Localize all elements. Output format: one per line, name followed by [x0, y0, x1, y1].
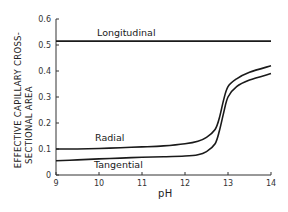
y-tick-label: 0.3	[38, 93, 51, 102]
y-tick-label: 0.4	[38, 67, 51, 76]
x-tick-label: 14	[266, 179, 276, 188]
x-tick-label: 12	[180, 179, 190, 188]
radial-line	[56, 66, 271, 149]
x-tick-label: 10	[94, 179, 104, 188]
tangential-line	[56, 74, 271, 161]
x-axis-title: pH	[158, 188, 172, 199]
y-tick-label: 0.5	[38, 41, 51, 50]
x-tick-label: 9	[53, 179, 58, 188]
y-axis-title-line2: SECTIONAL AREA	[24, 86, 34, 164]
chart: EFFECTIVE CAPILLARY CROSS- SECTIONAL ARE…	[0, 0, 288, 212]
tangential-label: Tangential	[93, 159, 143, 170]
longitudinal-label: Longitudinal	[97, 27, 156, 38]
x-ticks: 91011121314	[53, 172, 276, 188]
y-tick-label: 0.2	[38, 119, 51, 128]
y-tick-label: 0.1	[38, 145, 51, 154]
x-tick-label: 11	[137, 179, 147, 188]
y-tick-label: 0	[46, 171, 51, 180]
x-tick-label: 13	[223, 179, 233, 188]
radial-label: Radial	[95, 132, 124, 143]
y-axis-title-line1: EFFECTIVE CAPILLARY CROSS-	[13, 32, 23, 168]
y-tick-label: 0.6	[38, 15, 51, 24]
